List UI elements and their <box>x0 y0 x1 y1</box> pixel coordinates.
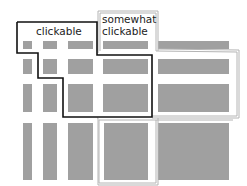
somewhat-clickable-label-line2: clickable <box>102 26 148 37</box>
clickability-diagram: clickable somewhat clickable <box>0 0 247 186</box>
clickable-label: clickable <box>36 26 82 37</box>
somewhat-clickable-label-line1: somewhat <box>102 14 156 25</box>
somewhat-clickable-outline <box>97 11 239 185</box>
